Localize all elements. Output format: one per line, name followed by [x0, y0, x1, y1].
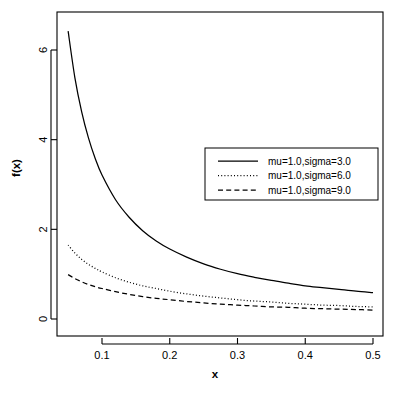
y-tick-label: 2: [37, 226, 49, 232]
y-axis-tick-labels: 0246: [37, 47, 49, 322]
y-axis: 0246 f(x): [10, 47, 57, 322]
y-axis-ticks: [51, 50, 57, 319]
legend-label: mu=1.0,sigma=3.0: [268, 156, 351, 167]
y-tick-label: 4: [37, 137, 49, 143]
chart-legend: mu=1.0,sigma=3.0mu=1.0,sigma=6.0mu=1.0,s…: [205, 148, 378, 200]
y-tick-label: 6: [37, 47, 49, 53]
x-axis-title: x: [212, 368, 219, 380]
x-tick-label: 0.5: [365, 349, 380, 361]
legend-label: mu=1.0,sigma=9.0: [268, 185, 351, 196]
curve-dotted: [68, 245, 373, 307]
x-tick-label: 0.2: [162, 349, 177, 361]
x-axis: 0.10.20.30.40.5 x: [94, 338, 380, 380]
y-tick-label: 0: [37, 316, 49, 322]
legend-label: mu=1.0,sigma=6.0: [268, 170, 351, 181]
x-axis-ticks: [102, 338, 373, 344]
x-tick-label: 0.1: [94, 349, 109, 361]
x-tick-label: 0.4: [298, 349, 313, 361]
chart-plot-area: 0246 f(x) 0.10.20.30.40.5 x mu=1.0,sigma…: [0, 0, 400, 394]
legend-entries: mu=1.0,sigma=3.0mu=1.0,sigma=6.0mu=1.0,s…: [218, 156, 351, 196]
x-axis-tick-labels: 0.10.20.30.40.5: [94, 349, 380, 361]
y-axis-title: f(x): [10, 159, 22, 177]
chart-figure: 0246 f(x) 0.10.20.30.40.5 x mu=1.0,sigma…: [0, 0, 400, 394]
x-tick-label: 0.3: [230, 349, 245, 361]
